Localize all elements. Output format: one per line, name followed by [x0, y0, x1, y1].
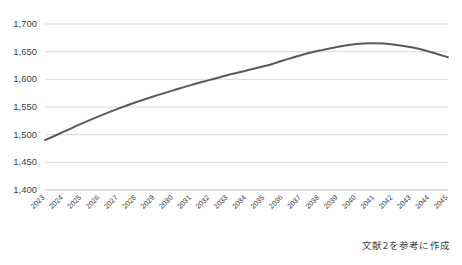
x-tick-label: 2024 — [47, 193, 65, 211]
y-tick-label: 1,450 — [13, 156, 37, 167]
x-tick-label: 2044 — [413, 193, 431, 211]
x-tick-label: 2029 — [139, 193, 157, 211]
x-tick-label: 2038 — [304, 193, 322, 211]
y-tick-label: 1,650 — [13, 46, 37, 57]
line-chart-figure: 1,7001,6501,6001,5501,5001,4501,400 2023… — [0, 0, 462, 265]
x-tick-label: 2042 — [377, 193, 395, 211]
x-axis-tick-labels: 2023202420252026202720282029203020312032… — [29, 193, 450, 211]
x-tick-label: 2034 — [230, 193, 248, 211]
x-tick-label: 2045 — [432, 193, 450, 211]
x-tick-label: 2037 — [285, 193, 303, 211]
x-tick-label: 2040 — [340, 193, 358, 211]
x-tick-label: 2025 — [65, 193, 83, 211]
y-tick-label: 1,600 — [13, 73, 37, 84]
x-tick-label: 2033 — [212, 193, 230, 211]
x-tick-label: 2023 — [29, 193, 47, 211]
data-series-line — [45, 43, 448, 140]
y-tick-label: 1,500 — [13, 129, 37, 140]
x-tick-label: 2043 — [395, 193, 413, 211]
x-tick-label: 2036 — [267, 193, 285, 211]
x-tick-label: 2026 — [84, 193, 102, 211]
source-caption: 文献2を参考に作成 — [362, 238, 450, 252]
y-axis-tick-labels: 1,7001,6501,6001,5501,5001,4501,400 — [13, 18, 37, 195]
x-tick-label: 2039 — [322, 193, 340, 211]
chart-svg: 1,7001,6501,6001,5501,5001,4501,400 2023… — [0, 0, 462, 232]
y-tick-label: 1,550 — [13, 101, 37, 112]
x-tick-label: 2035 — [249, 193, 267, 211]
x-tick-label: 2027 — [102, 193, 120, 211]
y-tick-label: 1,400 — [13, 184, 37, 195]
plot-area: 1,7001,6501,6001,5501,5001,4501,400 2023… — [0, 0, 462, 232]
x-tick-label: 2041 — [358, 193, 376, 211]
gridlines — [45, 24, 448, 190]
x-tick-label: 2032 — [194, 193, 212, 211]
y-tick-label: 1,700 — [13, 18, 37, 29]
x-tick-label: 2028 — [120, 193, 138, 211]
x-tick-label: 2030 — [157, 193, 175, 211]
x-tick-label: 2031 — [175, 193, 193, 211]
